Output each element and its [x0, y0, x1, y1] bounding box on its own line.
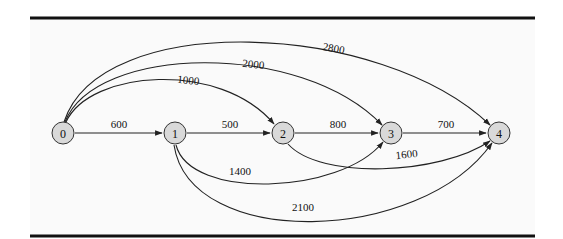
- edge-label-3-4: 700: [438, 118, 455, 130]
- edge-label-2-3: 800: [330, 118, 347, 130]
- node-0-label: 0: [60, 127, 66, 141]
- edge-label-2-4: 1600: [395, 147, 419, 161]
- edge-label-0-2: 1000: [177, 73, 201, 87]
- node-1: 1: [164, 122, 186, 144]
- node-1-label: 1: [172, 127, 178, 141]
- node-3: 3: [380, 122, 402, 144]
- node-4: 4: [488, 122, 510, 144]
- node-3-label: 3: [388, 127, 394, 141]
- graph-diagram: 600 500 800 700 1000 2000 2800 1400 1600…: [0, 0, 563, 239]
- edge-label-0-3: 2000: [242, 57, 266, 71]
- node-2-label: 2: [280, 127, 286, 141]
- edge-label-1-3: 1400: [229, 165, 252, 177]
- node-2: 2: [272, 122, 294, 144]
- edge-label-1-4: 2100: [292, 201, 315, 213]
- edge-label-0-1: 600: [111, 118, 128, 130]
- node-0: 0: [52, 122, 74, 144]
- edge-label-1-2: 500: [222, 118, 239, 130]
- node-4-label: 4: [496, 127, 502, 141]
